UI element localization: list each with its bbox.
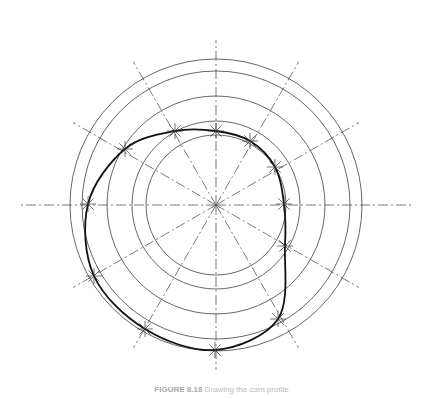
caption-text: Drawing the cam profile	[202, 385, 288, 394]
center-line	[73, 123, 216, 206]
cam-diagram	[0, 0, 443, 380]
figure-caption: FIGURE 8.18 Drawing the cam profile	[0, 385, 443, 394]
caption-label: FIGURE 8.18	[154, 385, 202, 394]
center-line	[134, 205, 217, 348]
cam-profile	[85, 129, 285, 350]
